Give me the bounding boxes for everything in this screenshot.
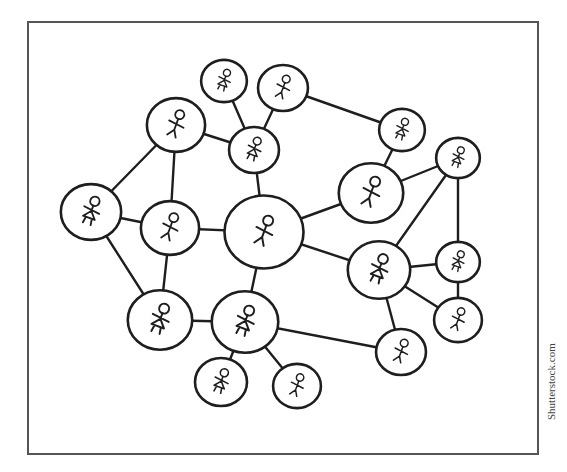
node-O xyxy=(212,291,279,352)
node-E xyxy=(379,109,425,151)
node-F xyxy=(339,163,403,223)
node-I xyxy=(141,201,199,255)
node-N xyxy=(128,290,192,350)
node-G xyxy=(436,138,480,178)
node-M xyxy=(434,298,482,342)
node-A xyxy=(147,98,205,152)
node-R xyxy=(273,364,321,408)
node-K xyxy=(348,241,410,299)
node-D xyxy=(229,127,279,173)
watermark-credit: Shutterstock.com xyxy=(545,343,557,420)
network-diagram xyxy=(0,0,567,472)
node-P xyxy=(376,329,426,375)
node-J xyxy=(224,196,303,269)
node-C xyxy=(258,65,308,111)
node-L xyxy=(436,242,480,282)
node-H xyxy=(61,184,121,240)
node-B xyxy=(201,60,247,102)
node-Q xyxy=(195,358,247,406)
